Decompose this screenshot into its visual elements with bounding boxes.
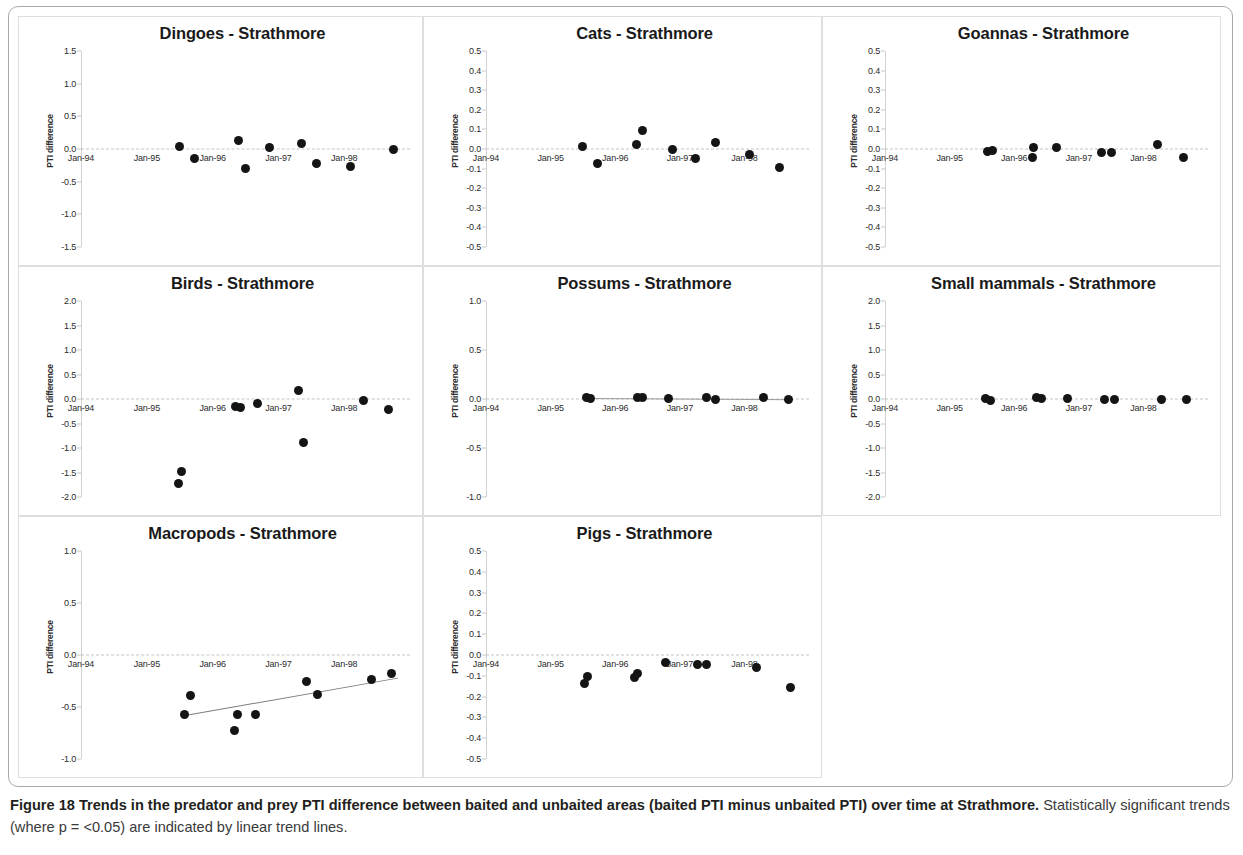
y-tick-mark <box>482 571 486 572</box>
y-tick-label: -0.2 <box>466 183 481 193</box>
data-point <box>387 669 396 678</box>
y-tick-mark <box>77 497 81 498</box>
y-tick-mark <box>77 301 81 302</box>
y-tick-mark <box>482 227 486 228</box>
data-point <box>367 675 376 684</box>
chart-panel-small-mammals: Small mammals - StrathmorePTI difference… <box>822 266 1221 516</box>
x-tick-label: Jan-98 <box>731 403 757 413</box>
y-tick-mark <box>77 707 81 708</box>
x-tick-label: Jan-97 <box>667 153 693 163</box>
y-tick-label: -0.2 <box>865 183 880 193</box>
y-tick-label: -1.0 <box>865 443 880 453</box>
y-tick-label: -0.5 <box>61 419 76 429</box>
zero-reference-line <box>81 149 410 150</box>
y-tick-mark <box>482 759 486 760</box>
y-axis-label: PTI difference <box>450 114 460 167</box>
y-tick-label: -0.5 <box>466 242 481 252</box>
y-tick-label: -1.5 <box>61 468 76 478</box>
x-tick-label: Jan-97 <box>667 659 693 669</box>
y-tick-mark <box>482 613 486 614</box>
y-tick-mark <box>881 227 885 228</box>
data-point <box>233 710 242 719</box>
data-point <box>578 142 587 151</box>
y-tick-mark <box>482 90 486 91</box>
y-axis-label: PTI difference <box>450 620 460 673</box>
x-tick-label: Jan-96 <box>199 659 225 669</box>
data-point <box>180 710 189 719</box>
y-tick-mark <box>482 592 486 593</box>
data-point <box>312 159 321 168</box>
y-tick-mark <box>482 551 486 552</box>
data-point <box>786 683 795 692</box>
y-tick-label: -2.0 <box>61 492 76 502</box>
y-tick-mark <box>881 497 885 498</box>
chart-panel-possums: Possums - StrathmorePTI difference1.00.5… <box>423 266 822 516</box>
data-point <box>630 673 639 682</box>
y-tick-mark <box>482 109 486 110</box>
chart-panel-pigs: Pigs - StrathmorePTI difference0.50.40.3… <box>423 516 822 778</box>
x-tick-label: Jan-95 <box>537 153 563 163</box>
x-tick-label: Jan-94 <box>68 659 94 669</box>
plot-area: 1.00.50.0-0.5-1.0Jan-94Jan-95Jan-96Jan-9… <box>486 301 809 497</box>
empty-grid-cell <box>822 516 1221 778</box>
data-point <box>177 467 186 476</box>
y-tick-label: 0.4 <box>469 567 481 577</box>
data-point <box>580 679 589 688</box>
plot-area: 1.00.50.0-0.5-1.0Jan-94Jan-95Jan-96Jan-9… <box>81 551 410 759</box>
chart-panel-birds: Birds - StrathmorePTI difference2.01.51.… <box>18 266 423 516</box>
data-point <box>313 690 322 699</box>
y-tick-label: -0.2 <box>466 692 481 702</box>
y-axis-label: PTI difference <box>450 364 460 417</box>
data-point <box>775 163 784 172</box>
x-tick-label: Jan-96 <box>602 153 628 163</box>
y-tick-mark <box>482 497 486 498</box>
y-tick-label: 2.0 <box>64 296 76 306</box>
data-point <box>253 399 262 408</box>
x-tick-label: Jan-95 <box>537 659 563 669</box>
y-tick-mark <box>482 129 486 130</box>
y-tick-mark <box>482 738 486 739</box>
y-tick-mark <box>482 70 486 71</box>
y-tick-label: -0.1 <box>865 164 880 174</box>
x-tick-label: Jan-94 <box>872 403 898 413</box>
y-tick-label: 0.5 <box>868 370 880 380</box>
x-tick-label: Jan-95 <box>134 403 160 413</box>
y-tick-label: -0.3 <box>466 203 481 213</box>
y-tick-label: 1.0 <box>64 546 76 556</box>
x-tick-label: Jan-97 <box>1066 403 1092 413</box>
y-tick-label: 0.3 <box>469 588 481 598</box>
x-tick-label: Jan-96 <box>1001 403 1027 413</box>
y-tick-mark <box>77 51 81 52</box>
figure-container: Dingoes - StrathmorePTI difference1.51.0… <box>0 0 1243 855</box>
plot-area: 0.50.40.30.20.10.0-0.1-0.2-0.3-0.4-0.5Ja… <box>486 551 809 759</box>
panel-title: Macropods - Strathmore <box>19 524 422 543</box>
y-axis-label: PTI difference <box>45 364 55 417</box>
y-tick-label: 0.5 <box>469 345 481 355</box>
plot-area: 2.01.51.00.50.0-0.5-1.0-1.5-2.0Jan-94Jan… <box>81 301 410 497</box>
zero-reference-line <box>81 655 410 656</box>
panel-title: Goannas - Strathmore <box>823 24 1220 43</box>
y-tick-label: -0.4 <box>466 733 481 743</box>
data-point <box>1107 148 1116 157</box>
data-point <box>693 660 702 669</box>
panel-title: Cats - Strathmore <box>424 24 821 43</box>
data-point <box>593 159 602 168</box>
panel-title: Pigs - Strathmore <box>424 524 821 543</box>
data-point <box>265 143 274 152</box>
y-tick-mark <box>482 51 486 52</box>
data-point <box>241 164 250 173</box>
data-point <box>784 395 793 404</box>
y-tick-label: -1.5 <box>61 242 76 252</box>
y-tick-label: 0.2 <box>469 105 481 115</box>
x-tick-label: Jan-98 <box>331 659 357 669</box>
figure-caption: Figure 18 Trends in the predator and pre… <box>10 794 1232 838</box>
x-tick-label: Jan-95 <box>134 153 160 163</box>
panel-title: Birds - Strathmore <box>19 274 422 293</box>
y-tick-mark <box>77 423 81 424</box>
panel-title: Dingoes - Strathmore <box>19 24 422 43</box>
y-tick-label: 0.3 <box>868 85 880 95</box>
x-tick-label: Jan-96 <box>602 659 628 669</box>
data-point <box>638 126 647 135</box>
x-tick-label: Jan-97 <box>667 403 693 413</box>
data-point <box>186 691 195 700</box>
